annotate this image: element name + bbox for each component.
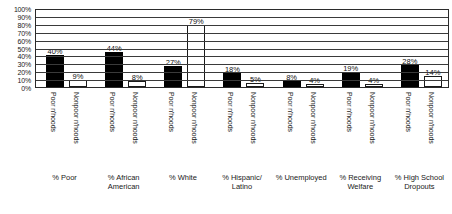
bar-nonpoor: 4% [365, 84, 383, 87]
rotated-tick-label: Nonpoor n'hoods [250, 92, 257, 144]
rotated-tick-label: Poor n'hoods [405, 92, 412, 132]
rotated-label-group: Poor n'hoodsNonpoor n'hoods [35, 90, 94, 158]
y-tick-label: 30% [18, 61, 31, 68]
y-tick-label: 70% [18, 29, 31, 36]
gridline [36, 64, 448, 65]
bar-nonpoor: 14% [424, 76, 442, 87]
bar-poor: 8% [283, 81, 301, 87]
category-axis-labels: % Poor% African American% White% Hispani… [35, 173, 449, 211]
rotated-tick-label: Poor n'hoods [287, 92, 294, 132]
gridline [36, 56, 448, 57]
y-tick-label: 60% [18, 37, 31, 44]
y-tick-label: 80% [18, 21, 31, 28]
bar-nonpoor: 8% [128, 81, 146, 87]
y-tick-label: 10% [18, 77, 31, 84]
rotated-tick-label: Nonpoor n'hoods [310, 92, 317, 144]
gridline [36, 49, 448, 50]
category-label: % Poor [35, 173, 94, 182]
category-label: % White [153, 173, 212, 182]
y-tick-label: 40% [18, 53, 31, 60]
bar-value-label: 27% [166, 59, 181, 67]
bar-chart: 0%10%20%30%40%50%60%70%80%90%100% 40%9%4… [0, 0, 452, 214]
rotated-tick-labels: Poor n'hoodsNonpoor n'hoodsPoor n'hoodsN… [35, 90, 449, 158]
gridline [36, 72, 448, 73]
rotated-label-group: Poor n'hoodsNonpoor n'hoods [153, 90, 212, 158]
rotated-label-group: Poor n'hoodsNonpoor n'hoods [331, 90, 390, 158]
y-tick-label: 90% [18, 13, 31, 20]
rotated-tick-label: Nonpoor n'hoods [191, 92, 198, 144]
bar-poor: 27% [164, 66, 182, 87]
y-tick-label: 20% [18, 69, 31, 76]
bar-nonpoor: 5% [246, 83, 264, 87]
rotated-tick-label: Poor n'hoods [50, 92, 57, 132]
y-tick-label: 50% [18, 45, 31, 52]
bar-nonpoor: 4% [306, 84, 324, 87]
category-label: % Hispanic/ Latino [212, 173, 271, 191]
rotated-tick-label: Poor n'hoods [168, 92, 175, 132]
gridline [36, 41, 448, 42]
bar-poor: 28% [401, 65, 419, 87]
rotated-tick-label: Poor n'hoods [227, 92, 234, 132]
rotated-tick-label: Poor n'hoods [109, 92, 116, 132]
gridline [36, 25, 448, 26]
rotated-tick-label: Nonpoor n'hoods [428, 92, 435, 144]
rotated-tick-label: Nonpoor n'hoods [132, 92, 139, 144]
category-label: % High School Dropouts [390, 173, 449, 191]
gridline [36, 33, 448, 34]
rotated-label-group: Poor n'hoodsNonpoor n'hoods [212, 90, 271, 158]
rotated-tick-label: Nonpoor n'hoods [73, 92, 80, 144]
plot-area: 40%9%44%8%27%79%18%5%8%4%19%4%28%14% [35, 9, 449, 88]
category-label: % African American [94, 173, 153, 191]
category-label: % Receiving Welfare [331, 173, 390, 191]
gridline [36, 80, 448, 81]
bar-value-label: 40% [47, 48, 62, 56]
y-tick-label: 100% [14, 6, 31, 13]
rotated-tick-label: Poor n'hoods [346, 92, 353, 132]
y-axis: 0%10%20%30%40%50%60%70%80%90%100% [0, 9, 33, 88]
category-label: % Unemployed [272, 173, 331, 182]
rotated-label-group: Poor n'hoodsNonpoor n'hoods [390, 90, 449, 158]
y-tick-label: 0% [21, 85, 31, 92]
bar-poor: 44% [105, 52, 123, 87]
gridline [36, 17, 448, 18]
rotated-tick-label: Nonpoor n'hoods [369, 92, 376, 144]
rotated-label-group: Poor n'hoodsNonpoor n'hoods [272, 90, 331, 158]
rotated-label-group: Poor n'hoodsNonpoor n'hoods [94, 90, 153, 158]
